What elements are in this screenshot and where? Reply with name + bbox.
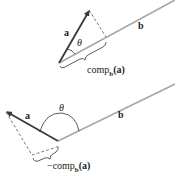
top-theta-arc bbox=[67, 49, 75, 54]
bottom-label-theta: θ bbox=[59, 102, 64, 113]
top-perpendicular-dashed bbox=[89, 10, 106, 37]
bottom-label-b: b bbox=[118, 109, 124, 120]
top-projection-label: compb(a) bbox=[87, 64, 125, 78]
vector-projection-diagram: a θ b compb(a) a θ b −compb(a) bbox=[0, 0, 175, 180]
bottom-theta-arc bbox=[40, 113, 79, 131]
top-label-a: a bbox=[64, 27, 69, 38]
top-label-theta: θ bbox=[77, 37, 82, 48]
bottom-projection-label: −compb(a) bbox=[47, 160, 90, 174]
bottom-perpendicular-dashed bbox=[6, 112, 57, 155]
bottom-diagram: a θ b −compb(a) bbox=[6, 84, 175, 174]
top-label-b: b bbox=[138, 20, 144, 31]
bottom-vector-b bbox=[58, 84, 175, 141]
top-diagram: a θ b compb(a) bbox=[59, 0, 175, 78]
bottom-label-a: a bbox=[25, 110, 30, 121]
